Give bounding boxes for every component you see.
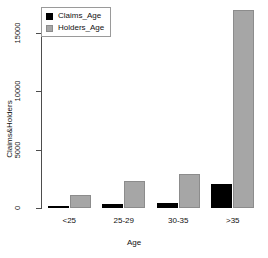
bar-holders [179,174,200,208]
bar-claims [211,184,232,209]
x-axis-line [42,208,260,209]
bar-holders [70,195,91,208]
x-axis-category-label: 30-35 [168,216,188,225]
bar-holders [124,181,145,208]
x-axis-category-label: >35 [226,216,240,225]
legend-label-claims: Claims_Age [58,12,101,20]
legend-item-holders: Holders_Age [46,23,104,33]
y-axis-tick-label: 15000 [13,23,22,44]
y-axis-tick [36,208,41,209]
legend-swatch-holders-icon [46,25,53,32]
legend-label-holders: Holders_Age [58,24,104,32]
bar-holders [233,10,254,208]
y-axis-tick-label: 5000 [13,141,22,158]
y-axis-tick [36,91,41,92]
y-axis-tick-label: 0 [13,206,22,210]
legend-swatch-claims-icon [46,13,53,20]
legend-item-claims: Claims_Age [46,11,104,21]
bar-chart-figure: 050001000015000 Claims&Holders <2525-293… [0,0,268,258]
x-axis-title: Age [0,238,268,247]
y-axis-tick-label: 10000 [13,81,22,102]
legend: Claims_Age Holders_Age [41,7,111,37]
y-axis-title: Claims&Holders [5,69,14,189]
x-axis-category-label: 25-29 [114,216,134,225]
x-axis-category-label: <25 [62,216,76,225]
y-axis-tick [36,150,41,151]
